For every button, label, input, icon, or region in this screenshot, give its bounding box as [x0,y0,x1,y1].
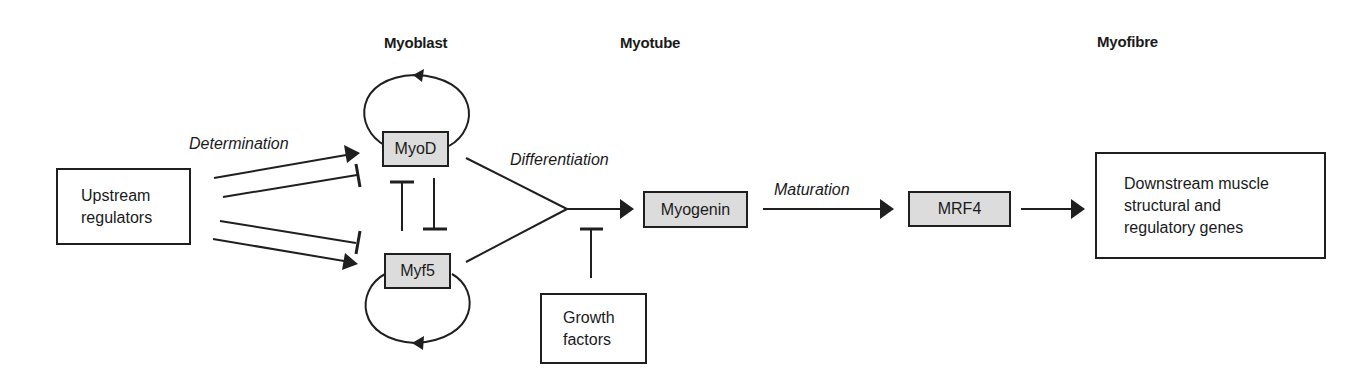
growth-factors-inhibition [580,229,603,278]
myf5-label: Myf5 [400,260,435,282]
node-myogenin: Myogenin [643,191,748,228]
downstream-line-2: structural and [1124,195,1324,217]
upstream-line-1: Upstream [81,185,189,207]
mrf4-label: MRF4 [938,198,982,220]
label-maturation: Maturation [774,181,850,199]
maturation-arrow [763,199,894,219]
myogenin-label: Myogenin [661,199,730,221]
myf5-inhibits-myod [390,182,414,231]
stage-myofibre: Myofibre [1097,33,1158,50]
myod-label: MyoD [395,138,437,160]
upstream-to-myod-inhibition [223,164,360,197]
stage-myotube: Myotube [620,34,680,51]
node-myf5: Myf5 [384,253,451,289]
upstream-to-myf5-activation [213,239,358,270]
node-mrf4: MRF4 [908,191,1011,227]
node-downstream-genes: Downstream muscle structural and regulat… [1095,152,1326,259]
downstream-line-3: regulatory genes [1124,217,1324,239]
growth-line-2: factors [563,329,645,351]
myod-inhibits-myf5 [423,178,447,229]
node-growth-factors: Growth factors [540,293,647,364]
stage-myoblast: Myoblast [384,34,447,51]
growth-line-1: Growth [563,307,645,329]
node-upstream-regulators: Upstream regulators [56,168,191,245]
downstream-line-1: Downstream muscle [1124,173,1324,195]
mrf4-to-downstream-arrow [1021,199,1085,219]
label-determination: Determination [189,135,289,153]
upstream-line-2: regulators [81,207,189,229]
differentiation-convergence [466,158,634,262]
label-differentiation: Differentiation [510,151,609,169]
upstream-to-myf5-inhibition [220,221,360,254]
node-myod: MyoD [382,131,449,167]
